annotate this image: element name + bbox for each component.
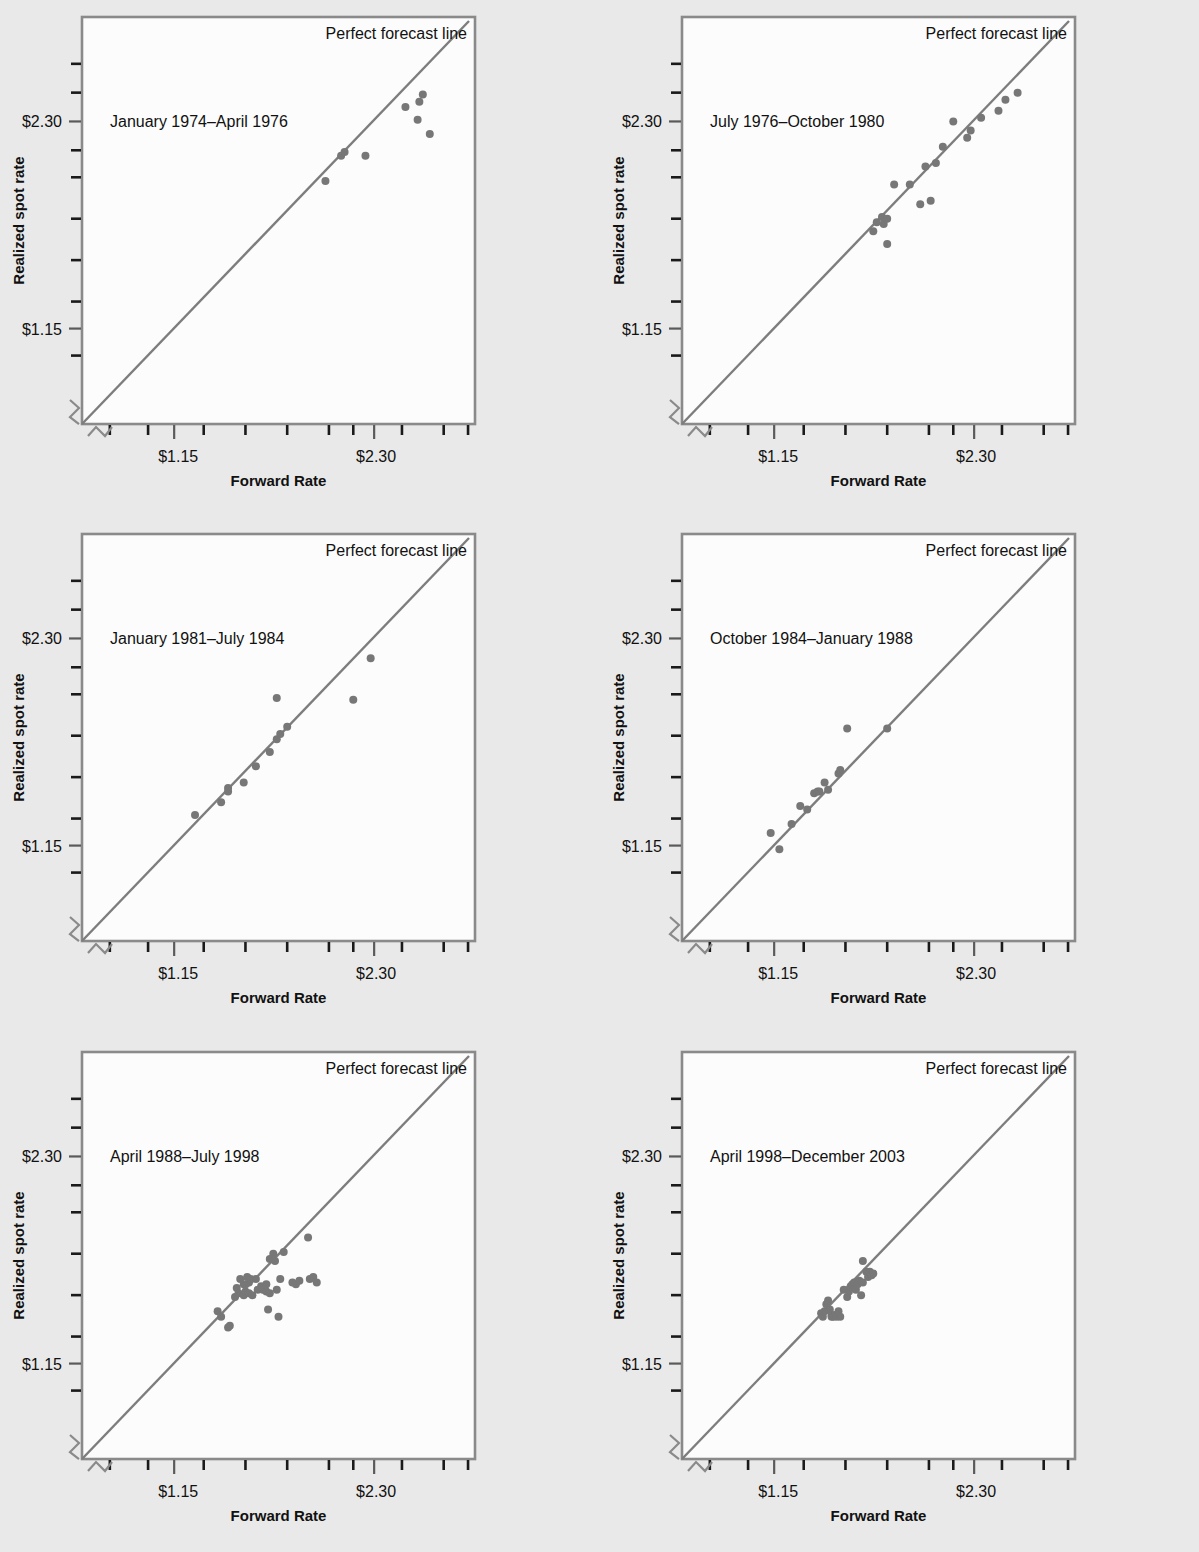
x-tick-label-115: $1.15 bbox=[758, 1483, 798, 1500]
perfect-forecast-line-label: Perfect forecast line bbox=[326, 25, 467, 42]
panel-period-label: April 1998–December 2003 bbox=[710, 1148, 905, 1165]
x-tick-label-230: $2.30 bbox=[356, 448, 396, 465]
y-tick-label-230: $2.30 bbox=[621, 1148, 661, 1165]
panel-period-label: January 1974–April 1976 bbox=[110, 113, 288, 130]
data-point bbox=[966, 126, 974, 134]
data-point bbox=[275, 1312, 283, 1320]
chart-panel-2: Perfect forecast lineJuly 1976–October 1… bbox=[600, 0, 1199, 517]
y-axis-title: Realized spot rate bbox=[610, 1191, 627, 1319]
data-point bbox=[280, 1248, 288, 1256]
y-tick-label-115: $1.15 bbox=[22, 321, 62, 338]
chart-panel-4: Perfect forecast lineOctober 1984–Januar… bbox=[600, 517, 1199, 1034]
chart-panel-5: Perfect forecast lineApril 1988–July 199… bbox=[0, 1035, 600, 1552]
data-point bbox=[1001, 96, 1009, 104]
chart-panel-1: Perfect forecast lineJanuary 1974–April … bbox=[0, 0, 600, 517]
y-axis-break-icon bbox=[70, 400, 79, 424]
data-point bbox=[766, 829, 774, 837]
data-point bbox=[938, 143, 946, 151]
data-point bbox=[931, 159, 939, 167]
x-axis-break-icon bbox=[88, 944, 112, 953]
x-tick-label-115: $1.15 bbox=[758, 965, 798, 982]
y-axis-break-icon bbox=[70, 917, 79, 941]
y-tick-label-230: $2.30 bbox=[621, 113, 661, 130]
panel-period-label: April 1988–July 1998 bbox=[110, 1148, 260, 1165]
y-tick-label-115: $1.15 bbox=[22, 838, 62, 855]
chart-panel-3: Perfect forecast lineJanuary 1981–July 1… bbox=[0, 517, 600, 1034]
data-point bbox=[857, 1291, 865, 1299]
x-tick-label-115: $1.15 bbox=[158, 448, 198, 465]
data-point bbox=[858, 1257, 866, 1265]
data-point bbox=[264, 1305, 272, 1313]
data-point bbox=[815, 788, 823, 796]
x-axis-break-icon bbox=[688, 427, 712, 436]
data-point bbox=[883, 215, 891, 223]
x-axis-break-icon bbox=[88, 427, 112, 436]
data-point bbox=[252, 1275, 260, 1283]
x-tick-label-230: $2.30 bbox=[356, 965, 396, 982]
data-point bbox=[803, 806, 811, 814]
data-point bbox=[226, 1321, 234, 1329]
x-axis-title: Forward Rate bbox=[830, 472, 926, 489]
data-point bbox=[994, 107, 1002, 115]
data-point bbox=[890, 180, 898, 188]
perfect-forecast-line-label: Perfect forecast line bbox=[925, 25, 1066, 42]
data-point bbox=[283, 723, 291, 731]
data-point bbox=[824, 786, 832, 794]
data-point bbox=[1013, 89, 1021, 97]
perfect-forecast-line-label: Perfect forecast line bbox=[326, 542, 467, 559]
y-axis-break-icon bbox=[670, 1435, 679, 1459]
panel-period-label: January 1981–July 1984 bbox=[110, 631, 284, 648]
data-point bbox=[836, 766, 844, 774]
data-point bbox=[252, 763, 260, 771]
data-point bbox=[977, 114, 985, 122]
perfect-forecast-line-label: Perfect forecast line bbox=[925, 542, 1066, 559]
y-tick-label-115: $1.15 bbox=[621, 838, 661, 855]
data-point bbox=[217, 799, 225, 807]
y-axis-title: Realized spot rate bbox=[10, 1191, 27, 1319]
data-point bbox=[869, 227, 877, 235]
x-tick-label-230: $2.30 bbox=[956, 1483, 996, 1500]
x-tick-label-115: $1.15 bbox=[158, 965, 198, 982]
data-point bbox=[269, 1249, 277, 1257]
data-point bbox=[869, 1269, 877, 1277]
data-point bbox=[349, 696, 357, 704]
data-point bbox=[273, 694, 281, 702]
data-point bbox=[266, 1289, 274, 1297]
data-point bbox=[217, 1312, 225, 1320]
data-point bbox=[367, 655, 375, 663]
x-axis-break-icon bbox=[688, 944, 712, 953]
data-point bbox=[273, 1285, 281, 1293]
x-axis-break-icon bbox=[88, 1462, 112, 1471]
data-point bbox=[796, 802, 804, 810]
data-point bbox=[361, 152, 369, 160]
data-point bbox=[836, 1312, 844, 1320]
data-point bbox=[240, 779, 248, 787]
y-tick-label-230: $2.30 bbox=[621, 631, 661, 648]
x-tick-label-115: $1.15 bbox=[758, 448, 798, 465]
data-point bbox=[271, 1257, 279, 1265]
x-tick-label-230: $2.30 bbox=[956, 965, 996, 982]
x-axis-title: Forward Rate bbox=[830, 989, 926, 1006]
x-tick-label-230: $2.30 bbox=[356, 1483, 396, 1500]
data-point bbox=[949, 117, 957, 125]
y-axis-break-icon bbox=[70, 1435, 79, 1459]
panel-period-label: October 1984–January 1988 bbox=[710, 631, 913, 648]
data-point bbox=[820, 779, 828, 787]
data-point bbox=[191, 811, 199, 819]
data-point bbox=[224, 788, 232, 796]
data-point bbox=[313, 1278, 321, 1286]
y-axis-title: Realized spot rate bbox=[610, 674, 627, 802]
data-point bbox=[775, 846, 783, 854]
data-point bbox=[787, 820, 795, 828]
panel-period-label: July 1976–October 1980 bbox=[710, 113, 884, 130]
y-axis-break-icon bbox=[670, 400, 679, 424]
y-axis-title: Realized spot rate bbox=[10, 156, 27, 284]
data-point bbox=[266, 748, 274, 756]
x-tick-label-115: $1.15 bbox=[158, 1483, 198, 1500]
figure-grid: Perfect forecast lineJanuary 1974–April … bbox=[0, 0, 1199, 1552]
x-tick-label-230: $2.30 bbox=[956, 448, 996, 465]
data-point bbox=[341, 148, 349, 156]
data-point bbox=[824, 1296, 832, 1304]
data-point bbox=[883, 725, 891, 733]
y-axis-title: Realized spot rate bbox=[10, 674, 27, 802]
